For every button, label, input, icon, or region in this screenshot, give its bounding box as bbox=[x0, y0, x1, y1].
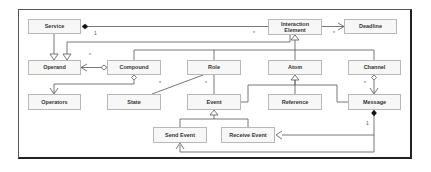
class-reference: Reference bbox=[268, 94, 322, 110]
class-send-event: Send Event bbox=[153, 127, 207, 143]
class-state: State bbox=[107, 94, 161, 110]
class-role: Role bbox=[187, 60, 241, 75]
multiplicity-role-event: * bbox=[205, 80, 207, 86]
class-atom: Atom bbox=[268, 60, 322, 75]
multiplicity-operand-many: * bbox=[89, 52, 91, 58]
class-receive-event: Receive Event bbox=[221, 127, 275, 143]
class-compound: Compound bbox=[107, 60, 161, 75]
class-interaction-element: Interaction Element bbox=[268, 19, 322, 35]
multiplicity-service-one: 1 bbox=[94, 30, 97, 36]
multiplicity-channel-message: * bbox=[364, 80, 366, 86]
class-channel: Channel bbox=[348, 60, 401, 75]
class-event: Event bbox=[187, 94, 241, 110]
class-service: Service bbox=[28, 19, 81, 34]
multiplicity-compound-state: * bbox=[159, 80, 161, 86]
multiplicity-service-many: * bbox=[253, 30, 255, 36]
class-operators: Operators bbox=[28, 94, 81, 110]
class-message: Message bbox=[348, 94, 401, 110]
multiplicity-message-events: 1 bbox=[366, 120, 369, 126]
class-operand: Operand bbox=[28, 60, 81, 75]
multiplicity-deadline-many: * bbox=[333, 30, 335, 36]
class-deadline: Deadline bbox=[344, 19, 397, 34]
